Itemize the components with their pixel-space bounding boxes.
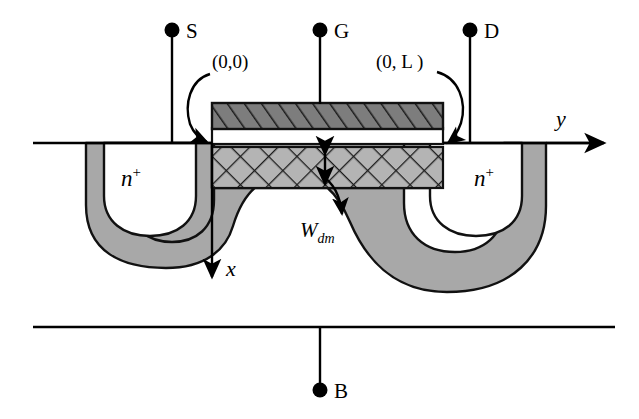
body-terminal-label: B xyxy=(334,379,348,403)
drain-terminal-label: D xyxy=(484,19,499,43)
channel-end-coordinate-label: (0, L ) xyxy=(376,51,423,73)
mosfet-cross-section-figure: S G D B (0,0) (0, L ) y x n+ n+ Wdm xyxy=(0,0,639,419)
source-well xyxy=(104,143,196,236)
gate-oxide-fill xyxy=(212,128,443,144)
x-axis-label: x xyxy=(225,256,236,281)
origin-callout-leader xyxy=(188,74,210,142)
gate-terminal-dot[interactable] xyxy=(313,23,328,38)
channel-depletion-fill xyxy=(212,147,443,188)
y-axis-label: y xyxy=(554,106,566,131)
gate-electrode-fill xyxy=(212,103,443,129)
body-terminal-dot[interactable] xyxy=(313,383,328,398)
figure-canvas: S G D B (0,0) (0, L ) y x n+ n+ Wdm xyxy=(0,0,639,419)
depletion-width-label-subscript: dm xyxy=(318,231,335,246)
drain-terminal-dot[interactable] xyxy=(463,23,478,38)
drain-region-label-superscript: + xyxy=(486,164,494,180)
origin-coordinate-label: (0,0) xyxy=(212,51,248,73)
source-terminal-dot[interactable] xyxy=(165,23,180,38)
drain-region-label-base: n xyxy=(474,166,486,191)
gate-oxide xyxy=(212,128,443,144)
gate-electrode xyxy=(212,103,443,129)
depletion-width-label: Wdm xyxy=(300,218,335,246)
gate-terminal-label: G xyxy=(334,19,349,43)
source-region-label-superscript: + xyxy=(133,164,141,180)
source-region-label-base: n xyxy=(121,166,133,191)
source-terminal-label: S xyxy=(186,19,198,43)
channel-depletion-box xyxy=(212,147,443,188)
